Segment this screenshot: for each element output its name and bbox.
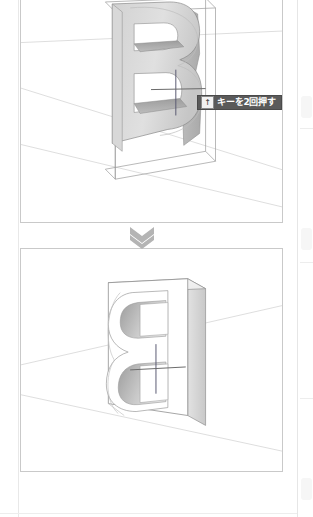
tooltip-label: キーを2回押す bbox=[217, 96, 276, 109]
keyboard-hint-tooltip: ↑ キーを2回押す bbox=[197, 95, 282, 110]
figure-panel-after bbox=[20, 248, 283, 472]
page-bleed-smudge bbox=[301, 228, 312, 250]
page-bleed-rule bbox=[300, 128, 313, 129]
page-bleed-smudge bbox=[301, 478, 312, 500]
double-chevron-down-icon bbox=[127, 225, 157, 249]
page-bleed-rule bbox=[300, 262, 313, 263]
modeling-viewport-before[interactable] bbox=[21, 0, 282, 222]
up-arrow-key-icon: ↑ bbox=[201, 96, 214, 109]
block-side-face bbox=[188, 279, 206, 426]
page-bleed-smudge bbox=[301, 96, 312, 118]
page-bottom-rule bbox=[0, 513, 297, 514]
page-bleed-rule bbox=[300, 398, 313, 399]
modeling-viewport-after[interactable] bbox=[21, 249, 282, 471]
figure-panel-before: ↑ キーを2回押す bbox=[20, 0, 283, 223]
step-separator bbox=[0, 224, 283, 250]
page-gutter-line bbox=[18, 0, 19, 517]
page-column-divider bbox=[297, 0, 298, 517]
